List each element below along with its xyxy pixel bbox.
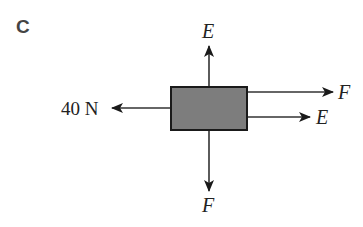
force-label-left: 40 N	[61, 98, 99, 119]
force-label-down: F	[201, 194, 215, 216]
free-body-diagram: E F 40 N F E	[0, 0, 363, 227]
force-label-right-top: F	[337, 81, 351, 103]
force-label-up: E	[201, 20, 214, 42]
block	[171, 87, 247, 130]
force-label-right-bottom: E	[315, 106, 328, 128]
